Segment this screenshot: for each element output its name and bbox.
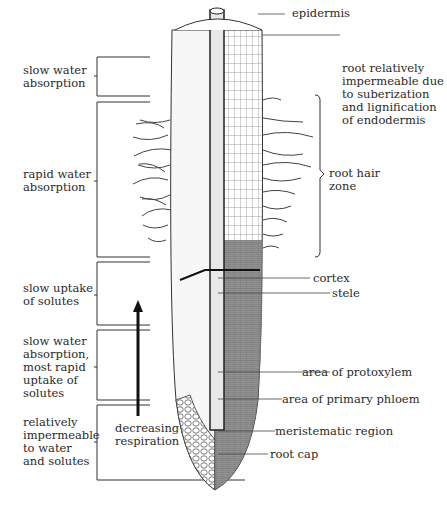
root-hairs-left (133, 120, 172, 242)
respiration-arrow (133, 300, 143, 416)
arrow-label: decreasing respiration (115, 422, 179, 448)
zone-label-1: slow water absorption (23, 64, 87, 90)
label-cortex: cortex (313, 272, 350, 285)
label-protoxylem: area of protoxylem (302, 366, 412, 379)
label-root-cap: root cap (270, 448, 318, 461)
label-meristem: meristematic region (275, 425, 393, 438)
zone-label-4: slow water absorption, most rapid uptake… (23, 335, 89, 400)
zone-label-2: rapid water absorption (23, 168, 91, 194)
label-stele: stele (332, 287, 360, 300)
root-hair-bracket (315, 95, 324, 257)
top-cut (175, 19, 262, 30)
label-epidermis: epidermis (292, 7, 350, 20)
zone-label-3: slow uptake of solutes (23, 282, 93, 308)
label-phloem: area of primary phloem (282, 393, 420, 406)
label-impermeable: root relatively impermeable due to suber… (342, 62, 444, 127)
zone-label-5: relatively impermeable to water and solu… (23, 416, 100, 468)
root-hairs-right (263, 98, 313, 248)
label-root-hair-zone: root hair zone (329, 167, 380, 193)
stele-column (210, 10, 224, 430)
